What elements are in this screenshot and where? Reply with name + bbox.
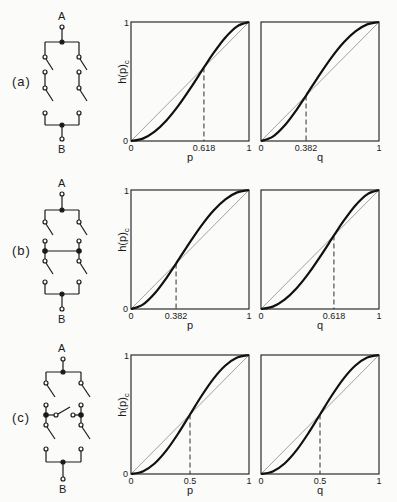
x-axis-label: q [317,151,323,163]
x-tick-label: 0 [258,311,263,321]
x-tick-label: 0 [258,143,263,153]
x-tick-label: 1 [376,476,381,486]
row-a: (a) A B 00.6181p [0,0,397,165]
diagonal-line [261,190,379,309]
row-c: (c) A [0,335,397,502]
x-tick-label: 1 [376,311,381,321]
x-tick-label: 0.382 [295,143,318,153]
x-axis-label: q [317,319,323,331]
row-b: (b) A [0,165,397,335]
plot-b-q: 00.6181q [0,165,397,335]
plot-a-q: 00.3821q [0,0,397,165]
x-tick-label: 0.618 [323,311,346,321]
plot-c-q: 00.51q [0,335,397,502]
x-tick-label: 1 [376,143,381,153]
diagonal-line [261,22,379,141]
x-tick-label: 0 [258,476,263,486]
x-axis-label: q [317,484,323,496]
